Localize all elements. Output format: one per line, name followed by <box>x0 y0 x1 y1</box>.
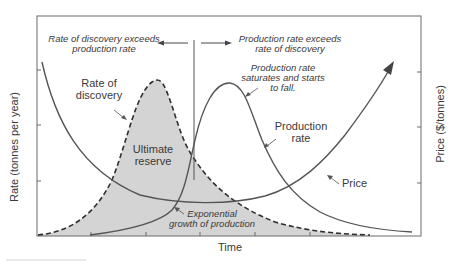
left-region-arrow <box>157 41 188 46</box>
right-region-line2: rate of discovery <box>234 44 346 54</box>
reserve-line2: reserve <box>128 156 178 168</box>
y-axis-right-label: Price ($/tonnes) <box>434 74 446 174</box>
price-pointer-icon <box>327 175 339 184</box>
exponential-line2: growth of production <box>162 219 262 229</box>
x-axis-label: Time <box>218 242 242 254</box>
price-arrowhead-icon <box>383 61 394 75</box>
production-line1: Production <box>271 121 331 133</box>
saturates-annotation: Production rate saturates and starts to … <box>238 63 328 93</box>
exponential-annotation: Exponential growth of production <box>162 209 262 229</box>
production-rate-label: Production rate <box>271 121 331 144</box>
discovery-label: Rate of discovery <box>74 78 124 101</box>
reserve-line1: Ultimate <box>128 144 178 156</box>
price-label: Price <box>342 178 367 190</box>
y-axis-left-label: Rate (tonnes per year) <box>8 87 20 207</box>
saturates-line3: to fall. <box>238 83 328 93</box>
left-axis-ticks <box>37 70 41 181</box>
discovery-pointer-icon <box>114 110 127 120</box>
ultimate-reserve-label: Ultimate reserve <box>128 144 178 167</box>
right-region-annotation: Production rate exceeds rate of discover… <box>234 34 346 54</box>
left-region-line2: production rate <box>48 44 160 54</box>
price-text: Price <box>342 177 367 189</box>
discovery-line1: Rate of <box>74 78 124 90</box>
production-line2: rate <box>271 133 331 145</box>
left-region-annotation: Rate of discovery exceeds production rat… <box>48 34 160 54</box>
discovery-line2: discovery <box>74 90 124 102</box>
right-axis-ticks <box>417 72 421 183</box>
right-region-arrow <box>201 41 232 46</box>
bottom-strip <box>6 259 86 261</box>
time-label: Time <box>218 241 242 253</box>
